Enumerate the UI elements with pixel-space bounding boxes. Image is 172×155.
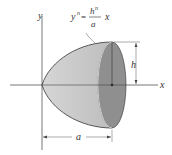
length-label: a bbox=[76, 131, 81, 142]
h-arrow-top bbox=[135, 43, 138, 47]
eq-lhs-exponent: n bbox=[77, 10, 80, 16]
a-arrow-right bbox=[107, 136, 111, 139]
y-axis-label: y bbox=[37, 10, 43, 21]
height-label: h bbox=[131, 59, 136, 70]
paraboloid-diagram: y x h a y n = h n a x bbox=[0, 0, 172, 155]
eq-denominator: a bbox=[91, 19, 96, 29]
eq-lhs: y bbox=[70, 11, 76, 22]
eq-rhs: x bbox=[104, 11, 110, 22]
x-axis-label: x bbox=[159, 79, 165, 90]
eq-numerator-exponent: n bbox=[95, 5, 98, 11]
a-arrow-left bbox=[43, 136, 47, 139]
eq-equals: = bbox=[81, 12, 86, 22]
equation: y n = h n a x bbox=[70, 5, 110, 29]
equation-leader bbox=[86, 33, 95, 43]
h-arrow-bottom bbox=[135, 80, 138, 84]
